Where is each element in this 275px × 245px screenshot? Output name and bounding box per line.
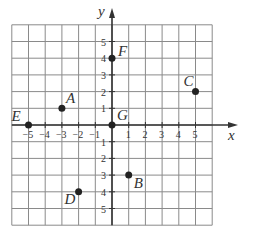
x-tick-label: 2 [142, 129, 147, 140]
point-a [58, 105, 65, 112]
x-tick-label: −4 [39, 129, 50, 140]
y-tick-label: 1 [101, 103, 106, 114]
point-label-e: E [11, 108, 21, 124]
x-tick-label: −3 [56, 129, 67, 140]
y-tick-label: 1 [101, 137, 106, 148]
point-g [109, 122, 116, 129]
x-axis-label: x [227, 127, 235, 143]
x-tick-label: −1 [89, 129, 100, 140]
point-label-b: B [134, 175, 143, 191]
y-axis-arrow-icon [109, 8, 115, 18]
x-tick-label: −2 [73, 129, 84, 140]
y-tick-label: 2 [101, 87, 106, 98]
x-tick-label: 5 [193, 129, 198, 140]
point-label-c: C [184, 73, 195, 89]
x-tick-label: −5 [23, 129, 34, 140]
point-f [109, 55, 116, 62]
y-axis-label: y [96, 3, 105, 19]
point-label-f: F [117, 43, 128, 59]
x-tick-label: 4 [176, 129, 181, 140]
point-label-g: G [117, 107, 128, 123]
point-label-a: A [65, 90, 76, 106]
point-c [192, 88, 199, 95]
coordinate-plane-svg: xy −5−4−3−2−1123455432112345 ABCDEFG [0, 0, 275, 245]
y-tick-label: 2 [101, 153, 106, 164]
coordinate-plane: xy −5−4−3−2−1123455432112345 ABCDEFG [0, 0, 275, 245]
point-label-d: D [64, 191, 76, 207]
point-e [25, 122, 32, 129]
y-tick-label: 4 [101, 53, 106, 64]
x-tick-label: 3 [159, 129, 164, 140]
point-d [75, 188, 82, 195]
y-tick-label: 5 [101, 204, 106, 215]
y-tick-label: 4 [101, 187, 106, 198]
x-tick-label: 1 [126, 129, 131, 140]
y-tick-label: 3 [101, 70, 106, 81]
y-tick-label: 5 [101, 37, 106, 48]
point-b [125, 172, 132, 179]
y-tick-label: 3 [101, 170, 106, 181]
